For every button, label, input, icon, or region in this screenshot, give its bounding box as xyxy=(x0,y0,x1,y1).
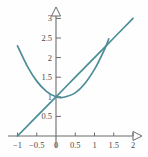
plot-svg: −1 −0.5 0 0.5 1 1.5 2 0.5 1 1.5 2 2.5 3 xyxy=(0,0,148,157)
x-tick-label: −0.5 xyxy=(29,140,44,150)
x-tick-label: 1 xyxy=(92,140,96,150)
y-axis-arrow-icon xyxy=(52,7,61,16)
figure-panel: ) −1 −0.5 xyxy=(0,0,148,157)
y-tick-label: 2 xyxy=(48,53,52,63)
x-tick-label: 0 xyxy=(54,140,58,150)
x-tick-label: 1.5 xyxy=(108,140,119,150)
y-tick-label: 1.5 xyxy=(41,72,52,82)
x-tick-label: 2 xyxy=(131,140,135,150)
y-tick-label: 0.5 xyxy=(41,111,52,121)
x-tick-label: 0.5 xyxy=(70,140,81,150)
y-tick-label: 2.5 xyxy=(41,33,52,43)
y-tick-label: 3 xyxy=(48,13,52,23)
x-tick-labels: −1 −0.5 0 0.5 1 1.5 2 xyxy=(13,140,135,150)
x-tick-label: −1 xyxy=(13,140,22,150)
y-tick-marks xyxy=(56,18,61,116)
